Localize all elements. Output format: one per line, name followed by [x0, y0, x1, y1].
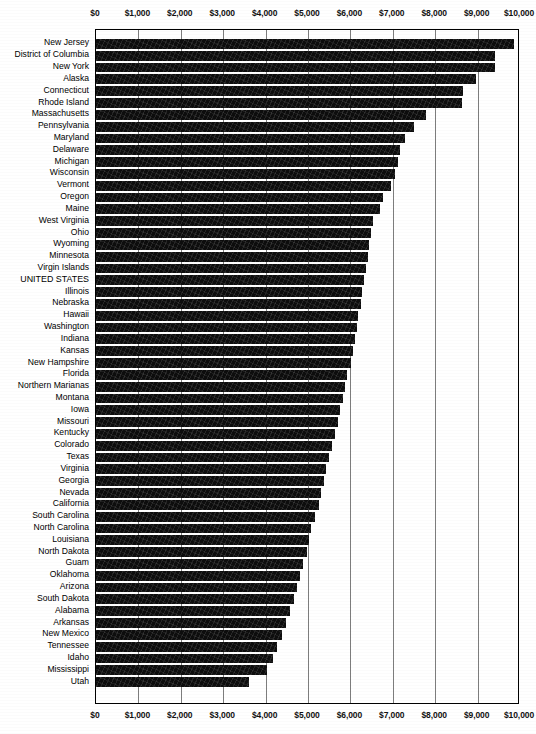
bar: [96, 110, 426, 120]
axis-tick-top-1: $1,000: [125, 8, 150, 18]
bar: [96, 630, 282, 640]
category-label: South Dakota: [37, 594, 89, 603]
category-label: Colorado: [54, 440, 89, 449]
axis-tick-top-9: $9,000: [464, 8, 489, 18]
bar: [96, 665, 267, 675]
category-label: Missouri: [57, 417, 89, 426]
bar: [96, 145, 400, 155]
bar: [96, 169, 395, 179]
category-label: Delaware: [53, 145, 89, 154]
axis-tick-bottom-1: $1,000: [125, 710, 150, 720]
bar: [96, 311, 358, 321]
bar: [96, 394, 343, 404]
category-label: South Carolina: [32, 511, 89, 520]
bar: [96, 134, 405, 144]
category-label: Alabama: [55, 606, 89, 615]
axis-tick-bottom-5: $5,000: [294, 710, 319, 720]
bar: [96, 252, 368, 262]
axis-tick-bottom-9: $9,000: [464, 710, 489, 720]
category-label: Alaska: [63, 74, 89, 83]
bar: [96, 512, 315, 522]
bar: [96, 157, 398, 167]
bar: [96, 441, 332, 451]
category-label: Texas: [67, 452, 89, 461]
axis-tick-bottom-6: $6,000: [337, 710, 362, 720]
category-label: Wisconsin: [50, 168, 89, 177]
category-label: Indiana: [61, 334, 89, 343]
bar: [96, 193, 383, 203]
category-label: Pennsylvania: [38, 121, 89, 130]
axis-tick-top-8: $8,000: [421, 8, 446, 18]
category-label: Arizona: [60, 582, 89, 591]
category-label: Nevada: [59, 488, 89, 497]
category-label: Michigan: [55, 157, 89, 166]
bar: [96, 181, 391, 191]
bar: [96, 204, 380, 214]
category-label: Louisiana: [52, 535, 89, 544]
category-label: UNITED STATES: [20, 275, 89, 284]
category-label: New Mexico: [42, 629, 89, 638]
category-label: Arkansas: [53, 618, 89, 627]
bar: [96, 583, 297, 593]
bar: [96, 547, 307, 557]
category-label: Virginia: [60, 464, 89, 473]
axis-tick-bottom-0: $0: [90, 710, 99, 720]
category-label: Utah: [71, 677, 89, 686]
bar: [96, 275, 364, 285]
axis-tick-top-5: $5,000: [294, 8, 319, 18]
bar-chart: $0$1,000$2,000$3,000$4,000$5,000$6,000$7…: [0, 0, 536, 734]
bar: [96, 642, 277, 652]
category-label: Oregon: [60, 192, 89, 201]
category-label: Washington: [44, 322, 89, 331]
category-label: Kentucky: [54, 428, 89, 437]
category-label: California: [53, 499, 89, 508]
axis-tick-bottom-8: $8,000: [421, 710, 446, 720]
category-label: Kansas: [60, 346, 89, 355]
bar: [96, 476, 324, 486]
bar: [96, 606, 290, 616]
category-label: New York: [53, 62, 89, 71]
category-label: Northern Marianas: [18, 381, 89, 390]
category-label: Mississippi: [47, 665, 89, 674]
bar: [96, 299, 361, 309]
category-label: Minnesota: [49, 251, 89, 260]
bar: [96, 500, 319, 510]
bar: [96, 654, 273, 664]
category-label: Guam: [66, 558, 89, 567]
category-label: Maryland: [54, 133, 89, 142]
bar: [96, 86, 463, 96]
category-label: Iowa: [71, 405, 89, 414]
category-label: North Dakota: [38, 547, 89, 556]
bar: [96, 323, 357, 333]
bar: [96, 74, 476, 84]
axis-tick-bottom-10: $10,000: [504, 710, 534, 720]
category-label: New Hampshire: [28, 358, 89, 367]
axis-tick-top-7: $7,000: [379, 8, 404, 18]
category-label: Hawaii: [63, 310, 89, 319]
bar: [96, 98, 462, 108]
category-label: Maine: [66, 204, 89, 213]
bar: [96, 358, 351, 368]
bar: [96, 524, 311, 534]
category-label: Ohio: [71, 228, 89, 237]
category-label: Connecticut: [44, 86, 89, 95]
category-label: Virgin Islands: [38, 263, 89, 272]
bar: [96, 287, 362, 297]
axis-tick-bottom-3: $3,000: [209, 710, 234, 720]
axis-tick-top-10: $10,000: [504, 8, 534, 18]
bar: [96, 559, 303, 569]
gridline: [435, 30, 436, 703]
bar: [96, 464, 326, 474]
bar: [96, 382, 345, 392]
category-label: North Carolina: [34, 523, 89, 532]
bar: [96, 264, 366, 274]
axis-tick-bottom-2: $2,000: [167, 710, 192, 720]
axis-tick-bottom-7: $7,000: [379, 710, 404, 720]
bar: [96, 535, 309, 545]
bar: [96, 216, 373, 226]
bar: [96, 618, 286, 628]
bar: [96, 594, 294, 604]
bar: [96, 488, 321, 498]
bar: [96, 417, 338, 427]
category-label: Illinois: [65, 287, 89, 296]
